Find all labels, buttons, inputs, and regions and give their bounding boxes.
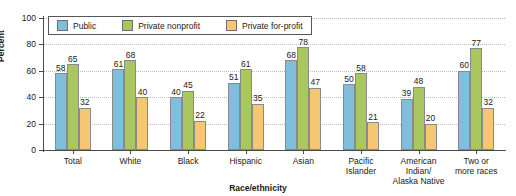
bar[interactable]: [240, 69, 252, 150]
bar[interactable]: [182, 91, 194, 150]
bar-column[interactable]: 48: [413, 18, 425, 150]
bar-column[interactable]: 65: [67, 18, 79, 150]
x-tick-mark: [246, 150, 247, 154]
bar[interactable]: [112, 69, 124, 150]
x-category-label: Black: [159, 156, 217, 166]
x-tick-mark: [419, 150, 420, 154]
bar[interactable]: [482, 108, 494, 150]
chart-legend: PublicPrivate nonprofitPrivate for-profi…: [48, 16, 312, 35]
bar-group: 607732: [458, 18, 494, 150]
x-category-label-line: Islander: [332, 166, 390, 176]
bar[interactable]: [55, 73, 67, 150]
bar-value-label: 40: [127, 88, 157, 97]
legend-label: Public: [73, 21, 96, 31]
bar[interactable]: [355, 73, 367, 150]
bar-value-label: 35: [243, 94, 273, 103]
bar-column[interactable]: 40: [136, 18, 148, 150]
bar-column[interactable]: 77: [470, 18, 482, 150]
bar[interactable]: [170, 97, 182, 150]
bar-column[interactable]: 61: [112, 18, 124, 150]
x-category-label-line: Indian/: [390, 166, 448, 176]
bar[interactable]: [79, 108, 91, 150]
y-tick-label: 40: [6, 93, 36, 102]
bar-value-label: 32: [70, 98, 100, 107]
bar-column[interactable]: 35: [252, 18, 264, 150]
plot-area: 5865326168404045225161356878475058213948…: [44, 18, 505, 150]
bar-group-bars: 505821: [343, 18, 379, 150]
x-tick-mark: [73, 150, 74, 154]
bar-column[interactable]: 58: [55, 18, 67, 150]
bar[interactable]: [194, 121, 206, 150]
y-tick-mark: [39, 150, 44, 151]
y-tick-label: 100: [6, 14, 36, 23]
bar-group: 586532: [55, 18, 91, 150]
x-category-label-line: Asian: [275, 156, 333, 166]
y-tick-label: 20: [6, 120, 36, 129]
bar-value-label: 20: [416, 114, 446, 123]
bar[interactable]: [367, 122, 379, 150]
bar[interactable]: [297, 47, 309, 150]
legend-item[interactable]: Public: [57, 20, 96, 31]
legend-label: Private for-profit: [242, 21, 302, 31]
x-category-label-line: Hispanic: [217, 156, 275, 166]
y-tick-label: 0: [6, 146, 36, 155]
legend-swatch-icon: [57, 20, 68, 31]
bar-value-label: 47: [300, 78, 330, 87]
bar[interactable]: [458, 71, 470, 150]
bar-value-label: 32: [473, 98, 503, 107]
bar[interactable]: [136, 97, 148, 150]
bar-value-label: 21: [358, 113, 388, 122]
bar[interactable]: [309, 88, 321, 150]
legend-item[interactable]: Private nonprofit: [122, 20, 200, 31]
x-category-label: White: [102, 156, 160, 166]
x-category-label-line: Black: [159, 156, 217, 166]
bar-group-bars: 404522: [170, 18, 206, 150]
bar[interactable]: [343, 84, 355, 150]
bar-group: 687847: [285, 18, 321, 150]
bar-column[interactable]: 21: [367, 18, 379, 150]
x-category-label-line: more races: [447, 166, 505, 176]
x-category-label-line: Total: [44, 156, 102, 166]
x-category-label-line: White: [102, 156, 160, 166]
bar-column[interactable]: 58: [355, 18, 367, 150]
x-category-label: Hispanic: [217, 156, 275, 166]
bar[interactable]: [124, 60, 136, 150]
bar-column[interactable]: 61: [240, 18, 252, 150]
bar-group: 404522: [170, 18, 206, 150]
bar[interactable]: [252, 104, 264, 150]
legend-item[interactable]: Private for-profit: [226, 20, 302, 31]
bar-group-bars: 607732: [458, 18, 494, 150]
x-tick-mark: [361, 150, 362, 154]
bar-column[interactable]: 47: [309, 18, 321, 150]
bar-column[interactable]: 68: [124, 18, 136, 150]
bar-column[interactable]: 45: [182, 18, 194, 150]
bar[interactable]: [425, 124, 437, 150]
x-category-label: Two ormore races: [447, 156, 505, 176]
x-category-label-line: Two or: [447, 156, 505, 166]
bar[interactable]: [401, 99, 413, 150]
x-category-label: AmericanIndian/Alaska Native: [390, 156, 448, 186]
bar-group-bars: 394820: [401, 18, 437, 150]
bar-group-bars: 586532: [55, 18, 91, 150]
bar[interactable]: [228, 83, 240, 150]
legend-label: Private nonprofit: [138, 21, 200, 31]
bar-column[interactable]: 20: [425, 18, 437, 150]
bar-column[interactable]: 32: [482, 18, 494, 150]
x-category-label-line: American: [390, 156, 448, 166]
bar-column[interactable]: 50: [343, 18, 355, 150]
bar-column[interactable]: 32: [79, 18, 91, 150]
legend-swatch-icon: [226, 20, 237, 31]
bar[interactable]: [285, 60, 297, 150]
bar-group-bars: 687847: [285, 18, 321, 150]
x-axis-line: [43, 150, 506, 151]
bar-column[interactable]: 51: [228, 18, 240, 150]
bar-column[interactable]: 22: [194, 18, 206, 150]
x-category-label: Asian: [275, 156, 333, 166]
bar[interactable]: [67, 64, 79, 150]
bar-group: 516135: [228, 18, 264, 150]
x-axis-title: Race/ethnicity: [0, 183, 516, 193]
y-tick-label: 80: [6, 40, 36, 49]
bar-chart: Percent 020406080100 5865326168404045225…: [0, 0, 516, 196]
y-tick-label: 60: [6, 67, 36, 76]
bar-column[interactable]: 60: [458, 18, 470, 150]
